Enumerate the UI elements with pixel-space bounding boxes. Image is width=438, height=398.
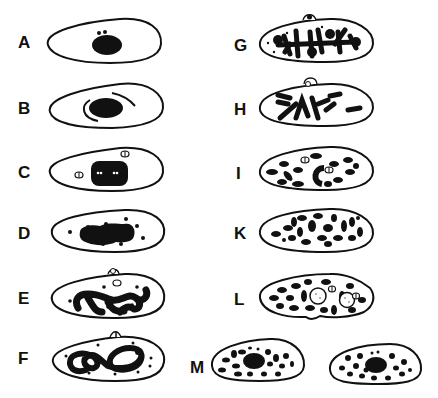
cell-d	[52, 210, 164, 252]
cell-a	[48, 19, 161, 63]
cell-m-right	[330, 344, 421, 384]
cell-k	[260, 209, 373, 252]
cell-f	[53, 332, 164, 381]
cell-i	[260, 147, 373, 190]
cell-g	[260, 15, 373, 63]
cell-c	[50, 148, 163, 191]
cell-l	[260, 274, 374, 319]
cell-m-left	[212, 339, 304, 381]
figure-canvas	[0, 0, 438, 398]
cell-h	[260, 78, 373, 126]
cell-b	[50, 84, 163, 128]
cell-e	[52, 269, 164, 319]
